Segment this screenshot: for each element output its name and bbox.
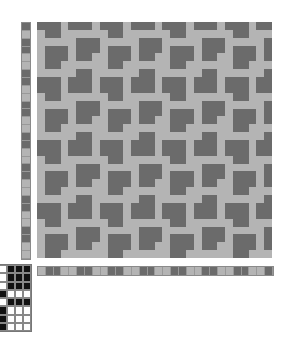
cloth-cell — [170, 116, 178, 124]
tieup-cell[interactable] — [23, 306, 31, 314]
cloth-cell — [162, 77, 170, 85]
cloth-cell — [53, 156, 61, 164]
tieup-cell[interactable] — [23, 273, 31, 281]
tieup-cell[interactable] — [7, 290, 15, 298]
cloth-cell — [162, 30, 170, 38]
tieup-cell[interactable] — [15, 273, 23, 281]
cloth-cell — [155, 38, 163, 46]
tieup-cell[interactable] — [0, 265, 7, 273]
cloth-cell — [225, 30, 233, 38]
cloth-cell — [256, 116, 264, 124]
cloth-cell — [53, 101, 61, 109]
tieup-cell[interactable] — [0, 298, 7, 306]
tieup-cell[interactable] — [15, 282, 23, 290]
cloth-cell — [194, 30, 202, 38]
cloth-cell — [92, 227, 100, 235]
cloth-cell — [45, 109, 53, 117]
cloth-cell — [225, 61, 233, 69]
tieup-cell[interactable] — [7, 298, 15, 306]
cloth-cell — [76, 227, 84, 235]
tieup-cell[interactable] — [7, 315, 15, 323]
cloth-cell — [225, 46, 233, 54]
cloth-cell — [241, 61, 249, 69]
cloth-cell — [194, 203, 202, 211]
cloth-cell — [147, 211, 155, 219]
cloth-cell — [131, 140, 139, 148]
tieup-cell[interactable] — [15, 323, 23, 331]
cloth-cell — [139, 140, 147, 148]
cloth-cell — [186, 203, 194, 211]
tieup-cell[interactable] — [7, 265, 15, 273]
cloth-cell — [155, 171, 163, 179]
cloth-cell — [186, 101, 194, 109]
cloth-cell — [76, 61, 84, 69]
cloth-cell — [53, 61, 61, 69]
cloth-cell — [123, 195, 131, 203]
cloth-cell — [217, 195, 225, 203]
cloth-cell — [241, 250, 249, 258]
cloth-cell — [108, 30, 116, 38]
cloth-cell — [100, 132, 108, 140]
cloth-cell — [84, 30, 92, 38]
cloth-cell — [202, 227, 210, 235]
tieup-cell[interactable] — [23, 290, 31, 298]
cloth-cell — [37, 101, 45, 109]
cloth-cell — [178, 124, 186, 132]
cloth-cell — [131, 101, 139, 109]
cloth-cell — [170, 132, 178, 140]
cloth-cell — [162, 93, 170, 101]
tieup-cell[interactable] — [0, 290, 7, 298]
cloth-cell — [92, 242, 100, 250]
cloth-cell — [170, 46, 178, 54]
cloth-cell — [209, 85, 217, 93]
cloth-cell — [45, 156, 53, 164]
tieup-cell[interactable] — [15, 265, 23, 273]
cloth-cell — [233, 140, 241, 148]
cloth-cell — [37, 242, 45, 250]
cloth-cell — [217, 46, 225, 54]
tieup-cell[interactable] — [15, 298, 23, 306]
tieup-cell[interactable] — [23, 298, 31, 306]
cloth-cell — [170, 164, 178, 172]
cloth-cell — [115, 148, 123, 156]
cloth-cell — [241, 179, 249, 187]
tieup-cell[interactable] — [0, 323, 7, 331]
cloth-cell — [225, 242, 233, 250]
cloth-cell — [225, 164, 233, 172]
cloth-cell — [115, 61, 123, 69]
cloth-cell — [202, 156, 210, 164]
tieup-cell[interactable] — [15, 306, 23, 314]
cloth-cell — [37, 140, 45, 148]
tieup-cell[interactable] — [7, 306, 15, 314]
cloth-cell — [209, 164, 217, 172]
tieup-cell[interactable] — [7, 282, 15, 290]
tieup-cell[interactable] — [0, 273, 7, 281]
cloth-cell — [264, 219, 272, 227]
tieup-cell[interactable] — [23, 323, 31, 331]
cloth-cell — [100, 211, 108, 219]
tieup-cell[interactable] — [15, 290, 23, 298]
cloth-cell — [53, 109, 61, 117]
cloth-cell — [162, 69, 170, 77]
cloth-cell — [264, 234, 272, 242]
tieup-cell[interactable] — [7, 273, 15, 281]
tieup-cell[interactable] — [0, 306, 7, 314]
tieup-cell[interactable] — [7, 323, 15, 331]
cloth-cell — [162, 242, 170, 250]
warp-cell — [38, 267, 46, 275]
cloth-cell — [233, 77, 241, 85]
cloth-cell — [139, 187, 147, 195]
tieup-cell[interactable] — [23, 282, 31, 290]
cloth-cell — [123, 38, 131, 46]
tieup-cell[interactable] — [0, 282, 7, 290]
cloth-cell — [100, 53, 108, 61]
cloth-cell — [76, 116, 84, 124]
cloth-cell — [108, 46, 116, 54]
tieup-cell[interactable] — [23, 315, 31, 323]
cloth-cell — [131, 187, 139, 195]
tieup-cell[interactable] — [0, 315, 7, 323]
tieup-cell[interactable] — [23, 265, 31, 273]
weft-cell — [22, 94, 30, 102]
cloth-cell — [264, 30, 272, 38]
tieup-cell[interactable] — [15, 315, 23, 323]
